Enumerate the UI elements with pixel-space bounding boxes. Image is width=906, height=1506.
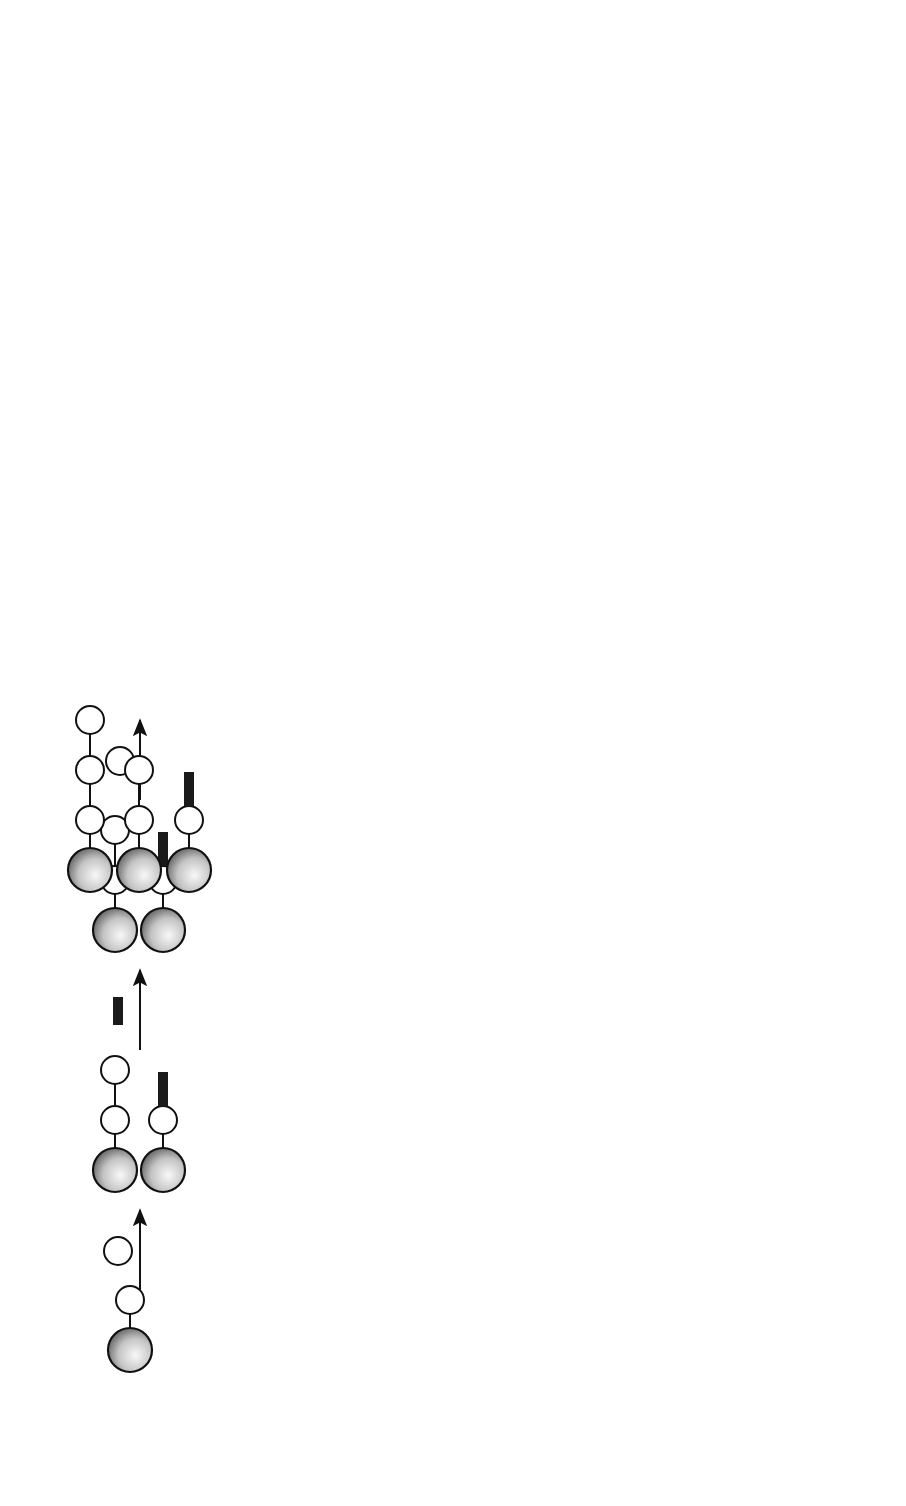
step-a-capping — [120, 1064, 131, 1114]
chain-group-a1 — [108, 1286, 152, 1372]
figure-canvas — [0, 0, 906, 1506]
panel-a — [68, 706, 211, 1372]
chain-group-a2 — [93, 1056, 185, 1192]
solid-support-icon — [108, 1328, 152, 1372]
capping-step-a2 — [115, 756, 125, 784]
step-a-coupling-1 — [104, 1210, 140, 1290]
capping-step-a1 — [113, 970, 140, 1050]
monomer-icon — [116, 1286, 144, 1314]
